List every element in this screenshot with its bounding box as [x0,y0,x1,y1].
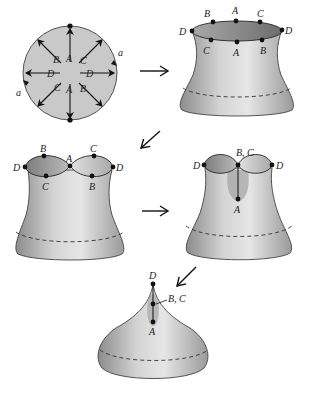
pinched-label-c-top: C [90,143,97,154]
tube-label-d-left: D [178,26,187,37]
pinched-label-d-right: D [115,162,124,173]
seamed-label-d-left: D [192,160,201,171]
disk-bottom-vertex [67,117,72,122]
disk-label-c-upper-right: C [80,55,87,66]
tube-label-b-bottom: B [260,45,266,56]
teardrop-figure: D B, C A [98,270,208,379]
seamed-tube-figure: D B, C D A [186,147,292,260]
seamed-label-d-right: D [275,160,284,171]
disk-figure: A A B B C C D D a a [16,23,123,122]
arrow-down-left-1-icon [141,131,160,148]
tube-label-a-bottom: A [232,47,240,58]
tube-label-c-bottom: C [203,45,210,56]
tube-label-b-top: B [204,8,210,19]
pinched-body [16,170,124,260]
disk-edge-label-a-left: a [16,87,21,98]
disk-label-d-left: D [46,68,55,79]
disk-edge-label-a-right: a [118,47,123,58]
seamed-label-bc: B, C [236,147,254,158]
pinched-label-a: A [65,153,73,164]
pinched-label-d-left: D [12,162,21,173]
pinched-label-b-bottom: B [89,181,95,192]
teardrop-label-a: A [148,326,156,337]
arrow-down-left-2-icon [177,267,196,286]
tube-label-c-top: C [257,8,264,19]
pinched-label-b-top: B [40,143,46,154]
pinched-tube-figure: D B A C D C B [12,143,124,260]
teardrop-label-bc: B, C [168,293,186,304]
tube-label-a-top: A [231,5,239,16]
tube-label-d-right: D [284,25,293,36]
disk-label-b-lower-right: B [80,83,86,94]
tube-figure: B A C C A B D D [178,5,293,116]
gluing-diagram: A A B B C C D D a a B A C C A B D D [0,0,309,397]
tube-rim [192,21,282,41]
disk-label-a-bottom: A [65,84,73,95]
disk-label-a-top: A [65,53,73,64]
disk-label-c-lower-left: C [54,82,61,93]
seamed-left-lobe [204,155,238,174]
disk-top-vertex [67,23,72,28]
disk-label-b-upper-left: B [53,54,59,65]
teardrop-label-d: D [148,270,157,281]
pinched-label-c-bottom: C [42,181,49,192]
seamed-label-a: A [233,204,241,215]
disk-label-d-right: D [85,68,94,79]
